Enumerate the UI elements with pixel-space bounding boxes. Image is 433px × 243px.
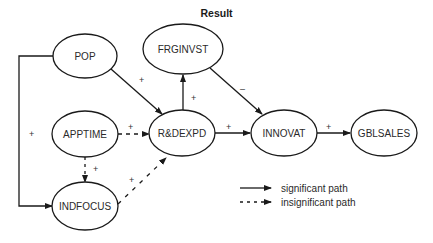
- edge-pop-indfocus: [19, 56, 53, 206]
- node-label: GBLSALES: [358, 128, 411, 139]
- node-label: R&DEXPD: [158, 128, 206, 139]
- sign-rdexpd-innovat: +: [226, 122, 231, 132]
- legend-insignificant-label: insignificant path: [281, 197, 356, 208]
- node-indfocus: INDFOCUS: [52, 182, 118, 230]
- node-label: FRGINVST: [158, 44, 209, 55]
- node-label: INDFOCUS: [59, 201, 112, 212]
- sign-pop-rdexpd: +: [139, 75, 144, 85]
- legend-significant-label: significant path: [281, 183, 348, 194]
- sign-rdexpd-frginvst: +: [191, 93, 196, 103]
- node-gblsales: GBLSALES: [351, 110, 417, 156]
- nodes: POP FRGINVST APPTIME R&DEXPD INNOVAT GBL…: [52, 24, 417, 230]
- sign-apptime-indfocus: +: [93, 164, 98, 174]
- edge-pop-rdexpd: [111, 69, 162, 114]
- sign-frginvst-innovat: –: [240, 84, 245, 94]
- sign-indfocus-rdexpd: +: [129, 175, 134, 185]
- node-label: POP: [74, 51, 95, 62]
- node-frginvst: FRGINVST: [143, 24, 223, 74]
- sign-apptime-rdexpd: +: [128, 122, 133, 132]
- node-pop: POP: [53, 34, 117, 78]
- sign-innovat-gblsales: +: [326, 122, 331, 132]
- legend: significant path insignificant path: [240, 183, 356, 208]
- node-label: INNOVAT: [263, 128, 306, 139]
- edge-frginvst-innovat: [210, 68, 262, 114]
- edge-indfocus-rdexpd: [118, 158, 166, 204]
- sign-pop-indfocus: +: [29, 129, 34, 139]
- node-innovat: INNOVAT: [251, 110, 317, 156]
- node-label: APPTIME: [63, 129, 107, 140]
- node-rdexpd: R&DEXPD: [149, 110, 215, 156]
- node-apptime: APPTIME: [52, 111, 118, 157]
- path-diagram: + + – + + + + + + POP FRGINVST APPTIME R…: [0, 0, 433, 243]
